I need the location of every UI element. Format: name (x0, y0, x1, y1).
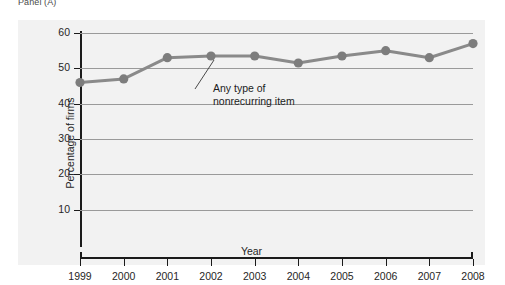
x-tick-1999 (80, 259, 81, 266)
data-point-2000 (119, 74, 128, 83)
x-tick-2007 (429, 259, 430, 266)
data-point-2007 (425, 53, 434, 62)
x-axis-left-cap (80, 252, 82, 259)
y-tick-label-10: 10 (30, 204, 70, 215)
x-tick-label-2007: 2007 (407, 271, 451, 282)
x-tick-label-2008: 2008 (451, 271, 495, 282)
data-point-2001 (163, 53, 172, 62)
y-tick-label-20: 20 (30, 168, 70, 179)
y-tick-label-30: 30 (30, 133, 70, 144)
x-tick-2001 (167, 259, 168, 266)
x-tick-label-1999: 1999 (58, 271, 102, 282)
chart-panel: Percentage of firms Year 102030405060 19… (18, 20, 485, 265)
x-tick-2002 (211, 259, 212, 266)
series-markers (75, 39, 477, 87)
panel-caption: Panel (A) (18, 0, 56, 7)
data-point-2004 (294, 58, 303, 67)
data-point-2005 (337, 51, 346, 60)
data-point-2003 (250, 51, 259, 60)
annotation-line-2: nonrecurring item (213, 95, 295, 108)
x-tick-2004 (298, 259, 299, 266)
data-point-1999 (75, 78, 84, 87)
x-tick-2000 (124, 259, 125, 266)
series-layer (80, 33, 473, 245)
x-tick-label-2006: 2006 (364, 271, 408, 282)
x-tick-2005 (342, 259, 343, 266)
x-tick-label-2003: 2003 (233, 271, 277, 282)
x-axis-right-cap (471, 252, 473, 259)
x-tick-label-2000: 2000 (102, 271, 146, 282)
x-tick-2008 (473, 259, 474, 266)
x-tick-2006 (386, 259, 387, 266)
series-line (80, 44, 473, 83)
x-tick-2003 (255, 259, 256, 266)
x-tick-label-2004: 2004 (276, 271, 320, 282)
data-point-2002 (206, 51, 215, 60)
y-tick-label-40: 40 (30, 98, 70, 109)
annotation-leader-line (195, 60, 214, 89)
x-axis-title: Year (18, 245, 485, 257)
series-annotation: Any type of nonrecurring item (213, 82, 295, 108)
x-axis-line (80, 257, 473, 259)
data-point-2006 (381, 46, 390, 55)
y-tick-label-60: 60 (30, 27, 70, 38)
x-tick-label-2002: 2002 (189, 271, 233, 282)
data-point-2008 (468, 39, 477, 48)
x-tick-label-2005: 2005 (320, 271, 364, 282)
x-tick-label-2001: 2001 (145, 271, 189, 282)
annotation-line-1: Any type of (213, 82, 295, 95)
plot-area: 102030405060 199920002001200220032004200… (80, 33, 473, 245)
y-tick-label-50: 50 (30, 62, 70, 73)
